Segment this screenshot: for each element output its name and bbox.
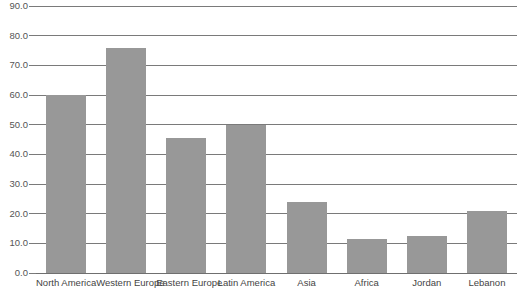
- x-axis-tick-label: Asia: [277, 277, 337, 289]
- bar[interactable]: [106, 48, 146, 273]
- y-tick-mark: [29, 6, 36, 7]
- x-axis-tick-label: Africa: [337, 277, 397, 289]
- y-axis-tick-label: 10.0: [0, 238, 28, 248]
- y-axis-tick-label: 0.0: [0, 268, 28, 278]
- bar[interactable]: [287, 202, 327, 273]
- bar[interactable]: [46, 95, 86, 273]
- y-tick-mark: [29, 213, 36, 214]
- plot-area: [36, 6, 517, 273]
- x-axis-tick-label: North America: [36, 277, 96, 289]
- bar[interactable]: [166, 138, 206, 273]
- bar[interactable]: [347, 239, 387, 273]
- bars: [36, 6, 517, 273]
- y-axis-tick-label: 40.0: [0, 149, 28, 159]
- y-axis-tick-label: 90.0: [0, 1, 28, 11]
- x-axis-tick-label: Eastern Europe: [156, 277, 216, 289]
- y-axis-tick-label: 80.0: [0, 31, 28, 41]
- y-tick-mark: [29, 65, 36, 66]
- y-tick-mark: [29, 35, 36, 36]
- y-tick-mark: [29, 95, 36, 96]
- y-axis-tick-label: 20.0: [0, 209, 28, 219]
- y-axis-tick-label: 50.0: [0, 120, 28, 130]
- x-axis-tick-label: Jordan: [397, 277, 457, 289]
- bar[interactable]: [467, 211, 507, 273]
- y-tick-mark: [29, 154, 36, 155]
- bar[interactable]: [407, 236, 447, 273]
- y-axis-tick-label: 60.0: [0, 90, 28, 100]
- y-axis-tick-label: 30.0: [0, 179, 28, 189]
- y-tick-mark: [29, 124, 36, 125]
- y-axis-tick-label: 70.0: [0, 60, 28, 70]
- bar[interactable]: [226, 125, 266, 273]
- x-axis-tick-label: Lebanon: [457, 277, 517, 289]
- x-axis-tick-label: Latin America: [216, 277, 276, 289]
- y-tick-mark: [29, 273, 36, 274]
- x-axis-tick-label: Western Europe: [96, 277, 156, 289]
- bar-chart: North AmericaWestern EuropeEastern Europ…: [0, 0, 525, 300]
- y-tick-mark: [29, 184, 36, 185]
- y-tick-mark: [29, 243, 36, 244]
- x-axis: North AmericaWestern EuropeEastern Europ…: [36, 277, 517, 293]
